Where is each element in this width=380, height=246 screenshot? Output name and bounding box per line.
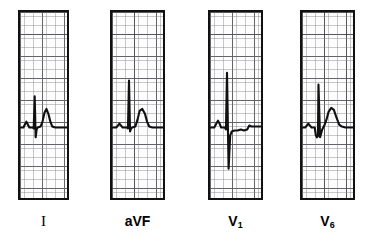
lead-label-avf: aVF [110,214,165,228]
ecg-trace-lead-i [20,12,67,198]
lead-label-i: I [18,214,69,229]
lead-label-subscript: 6 [330,220,335,230]
ecg-figure: I aVF V1 V6 [0,0,380,246]
ecg-panel-lead-i [18,10,69,200]
ecg-waveform-path [210,73,261,169]
ecg-panel-lead-v6 [300,10,355,200]
ecg-trace-lead-v1 [210,12,261,198]
ecg-panel-lead-v1 [208,10,263,200]
ecg-waveform-path [302,84,353,137]
ecg-waveform-path [20,96,67,137]
ecg-trace-lead-v6 [302,12,353,198]
lead-label-v6: V6 [300,214,355,228]
lead-label-v1: V1 [208,214,263,228]
lead-label-subscript: 1 [238,220,243,230]
ecg-panel-lead-avf [110,10,165,200]
ecg-waveform-path [112,81,163,132]
ecg-trace-lead-avf [112,12,163,198]
